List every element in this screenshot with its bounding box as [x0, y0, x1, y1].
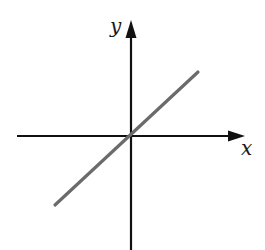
x-axis-label: x — [241, 136, 252, 160]
y-axis-arrow-icon — [126, 20, 137, 38]
plotted-line — [55, 72, 198, 205]
coordinate-plane: y x — [0, 0, 265, 250]
y-axis-label: y — [109, 14, 122, 38]
